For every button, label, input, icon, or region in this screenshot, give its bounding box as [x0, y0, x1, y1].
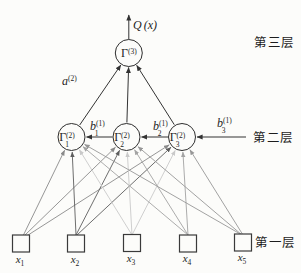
edge-label-b3: b(1)3	[217, 116, 232, 135]
sup-label: (3)	[128, 47, 137, 56]
sub-label: 5	[243, 257, 247, 266]
edge-x3-gamma1	[79, 150, 132, 235]
edge-x1-gamma2	[24, 147, 116, 236]
sub-label: 2	[76, 259, 80, 268]
q-arg: (x)	[144, 18, 157, 32]
edge-label-b1: b(1)1	[90, 119, 105, 138]
layer-label-2: 第二层	[253, 131, 294, 145]
diagram-canvas: Γ(3) Γ(2)1 Γ(2)2 Γ(2)3 Q(x) a(2) b(1)1 b…	[0, 0, 301, 273]
input-square-5	[235, 234, 252, 251]
input-edges	[23, 144, 243, 237]
sub-label: 4	[188, 258, 192, 267]
sub-label: 3	[222, 126, 226, 135]
input-label-2: x2	[70, 253, 80, 268]
hidden-to-output-edges	[80, 65, 175, 125]
sup-label: (1)	[159, 119, 168, 128]
network-diagram: Γ(3) Γ(2)1 Γ(2)2 Γ(2)3 Q(x) a(2) b(1)1 b…	[0, 0, 301, 273]
input-square-3	[124, 235, 141, 252]
edge-x5-gamma2	[138, 147, 242, 235]
output-label: Q(x)	[133, 18, 157, 32]
sub-label: 2	[158, 129, 162, 138]
q-symbol: Q	[133, 18, 142, 32]
input-label-4: x4	[182, 252, 192, 267]
edge-x2-gamma2	[76, 150, 120, 235]
sub-label: 2	[120, 140, 124, 149]
sup-label: (2)	[177, 131, 186, 140]
edge-x1-gamma1	[23, 150, 65, 236]
input-square-4	[180, 235, 197, 252]
input-label-5: x5	[237, 251, 247, 266]
sub-label: 3	[132, 258, 136, 267]
sub-label: 3	[176, 140, 180, 149]
sub-label: 1	[95, 129, 99, 138]
sub-label: 1	[65, 140, 69, 149]
edge-x3-gamma2	[127, 152, 132, 235]
edge-gamma1-gamma3	[80, 65, 121, 125]
sup-label: (2)	[121, 131, 130, 140]
input-square-2	[68, 235, 85, 252]
input-label-3: x3	[126, 252, 136, 267]
edge-label-b2: b(1)2	[153, 119, 168, 138]
edge-x4-gamma2	[135, 150, 189, 235]
layer-label-3: 第三层	[254, 36, 295, 50]
edge-gamma2-gamma3	[127, 68, 129, 123]
layer-label-1: 第一层	[255, 236, 296, 250]
edge-label-a2: a(2)	[62, 74, 77, 88]
sup-label: (2)	[68, 74, 77, 83]
sup-label: (2)	[66, 131, 75, 140]
input-label-1: x1	[15, 253, 25, 268]
edge-x5-gamma3	[190, 150, 243, 235]
input-square-1	[13, 235, 30, 252]
sup-label: (1)	[96, 119, 105, 128]
sub-label: 1	[21, 259, 25, 268]
edge-x4-gamma3	[183, 152, 188, 235]
sup-label: (1)	[223, 116, 232, 125]
edge-x2-gamma1	[72, 152, 76, 235]
edge-x5-gamma1	[85, 144, 243, 235]
edge-gamma3-gamma3	[137, 65, 175, 124]
